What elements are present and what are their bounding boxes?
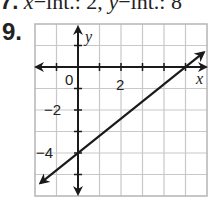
x-tick-0: 0 — [65, 71, 73, 88]
y-axis-label: y — [83, 28, 93, 46]
x-axis-label: x — [195, 70, 203, 87]
y-tick-neg2: −2 — [44, 101, 61, 118]
line-graph: y x 0 2 −2 −4 — [0, 0, 213, 210]
y-tick-neg4: −4 — [36, 144, 53, 161]
x-tick-2: 2 — [116, 76, 124, 93]
